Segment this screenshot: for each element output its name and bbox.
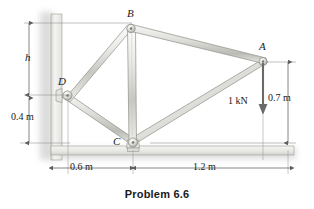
truss-members bbox=[62, 24, 268, 145]
member-BC bbox=[128, 27, 137, 144]
member-BA bbox=[130, 24, 265, 64]
dimension-label-h: h bbox=[25, 52, 31, 63]
dimension-label-0-7m: 0.7 m bbox=[268, 93, 291, 103]
joint-pin-C bbox=[127, 138, 140, 152]
load-arrow-1kN bbox=[259, 63, 268, 160]
dimension-label-0-4m: 0.4 m bbox=[11, 112, 34, 122]
figure-container: B A D C h 0.4 m 0.7 m 0.6 m 1.2 m 1 kN P… bbox=[0, 0, 314, 209]
member-DC bbox=[62, 92, 135, 145]
joint-label-B: B bbox=[127, 8, 134, 19]
joint-label-A: A bbox=[259, 41, 266, 52]
truss-diagram-graphic bbox=[0, 0, 314, 209]
joint-label-C: C bbox=[113, 136, 120, 147]
support-wall bbox=[51, 14, 62, 160]
figure-caption: Problem 6.6 bbox=[0, 188, 314, 200]
dimension-label-0-6m: 0.6 m bbox=[70, 162, 93, 172]
load-label-1kN: 1 kN bbox=[228, 96, 248, 106]
member-DB bbox=[66, 25, 133, 103]
joint-label-D: D bbox=[58, 76, 66, 87]
dimension-label-1-2m: 1.2 m bbox=[193, 162, 216, 172]
support-ground bbox=[51, 146, 294, 155]
joint-pins bbox=[56, 24, 267, 151]
joint-pin-B bbox=[127, 24, 135, 32]
